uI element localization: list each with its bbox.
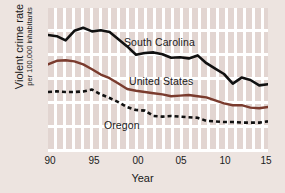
x-axis-title: Year <box>0 172 285 184</box>
y-axis-subtitle: per 100,000 inhabitants <box>25 0 34 107</box>
series-label-south-carolina: South Carolina <box>124 36 195 48</box>
xtick-2005: 05 <box>175 155 186 166</box>
y-axis-title: Violent crime rate <box>13 0 25 107</box>
xtick-1990: 90 <box>44 155 55 166</box>
series-label-oregon: Oregon <box>104 119 140 131</box>
xtick-2015: 15 <box>260 155 271 166</box>
y-axis-title-group: Violent crime rate per 100,000 inhabitan… <box>13 0 34 107</box>
xtick-2000: 00 <box>132 155 143 166</box>
chart-figure: South Carolina United States Oregon 90 9… <box>0 0 285 193</box>
xtick-1995: 95 <box>88 155 99 166</box>
xtick-2010: 10 <box>219 155 230 166</box>
series-label-united-states: United States <box>129 75 193 87</box>
